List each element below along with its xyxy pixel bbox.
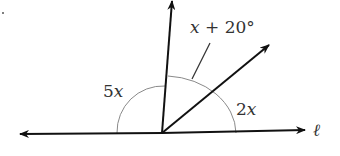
label-line-l: ℓ xyxy=(313,120,320,140)
label-left-angle: 5x xyxy=(103,81,124,101)
stray-mark xyxy=(2,12,4,14)
label-middle-angle: x + 20° xyxy=(190,17,255,37)
arc-x-plus-20-and-2x xyxy=(168,76,236,133)
line-l-left-arrow xyxy=(20,133,162,134)
angle-diagram: x + 20° 5x 2x ℓ xyxy=(0,0,340,156)
label-leader-line xyxy=(192,43,210,79)
arc-5x xyxy=(117,86,165,133)
label-right-angle: 2x xyxy=(236,99,257,119)
ray-diagonal xyxy=(162,45,269,133)
line-l-right-arrow xyxy=(162,130,305,133)
ray-vertical xyxy=(162,1,172,133)
